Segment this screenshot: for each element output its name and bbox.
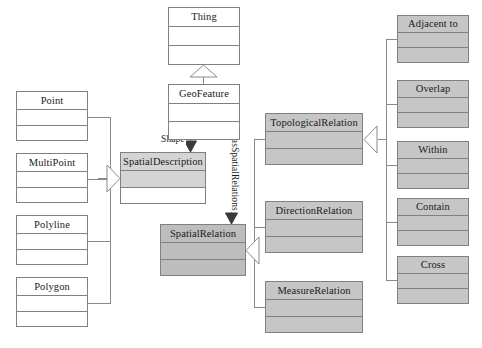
class-box-cross[interactable]: Cross — [397, 256, 469, 304]
edge-point-bus — [88, 117, 110, 118]
class-attributes-compartment — [398, 274, 468, 289]
class-attributes-compartment — [398, 216, 468, 231]
class-operations-compartment — [398, 174, 468, 188]
edge-contain-bus — [386, 222, 397, 223]
class-attributes-compartment — [17, 110, 87, 126]
class-attributes-compartment — [266, 132, 362, 149]
class-attributes-compartment — [266, 300, 362, 317]
edge-topological-bus-vertical — [386, 39, 387, 280]
class-box-adjacentto[interactable]: Adjacent to — [397, 15, 469, 63]
class-operations-compartment — [17, 126, 87, 141]
generalization-arrow-topologicalrelation — [363, 125, 379, 154]
edge-geometry-bus-vertical — [110, 117, 111, 304]
class-attributes-compartment — [121, 171, 205, 188]
class-operations-compartment — [398, 48, 468, 62]
class-box-directionrelation[interactable]: DirectionRelation — [265, 201, 363, 253]
class-attributes-compartment — [398, 159, 468, 174]
class-title-cross: Cross — [398, 257, 468, 274]
class-attributes-compartment — [17, 234, 87, 250]
class-operations-compartment — [17, 188, 87, 203]
class-box-overlap[interactable]: Overlap — [397, 80, 469, 128]
class-title-multipoint: MultiPoint — [17, 154, 87, 172]
generalization-arrow-spatialrelation — [245, 236, 261, 265]
edge-within-bus — [386, 165, 397, 166]
class-operations-compartment — [266, 317, 362, 333]
edge-directionrelation-bus — [254, 227, 265, 228]
class-operations-compartment — [169, 46, 239, 64]
generalization-arrow-thing — [189, 65, 218, 78]
class-attributes-compartment — [169, 104, 239, 122]
class-attributes-compartment — [266, 220, 362, 237]
class-title-directionrelation: DirectionRelation — [266, 202, 362, 220]
class-operations-compartment — [17, 312, 87, 327]
class-title-adjacentto: Adjacent to — [398, 16, 468, 33]
class-attributes-compartment — [161, 243, 245, 260]
edge-topologicalrelation-bus — [254, 139, 265, 140]
class-box-within[interactable]: Within — [397, 141, 469, 189]
edge-measurerelation-bus — [254, 307, 265, 308]
class-operations-compartment — [169, 122, 239, 139]
class-title-point: Point — [17, 92, 87, 110]
edge-relation-bus-vertical — [254, 139, 255, 307]
class-box-geofeature[interactable]: GeoFeature — [168, 84, 240, 140]
class-title-measurerelation: MeasureRelation — [266, 282, 362, 300]
class-title-polygon: Polygon — [17, 278, 87, 296]
class-title-polyline: Polyline — [17, 216, 87, 234]
edge-overlap-bus — [386, 104, 397, 105]
class-operations-compartment — [398, 113, 468, 127]
class-title-geofeature: GeoFeature — [169, 85, 239, 104]
edge-adjacentto-bus — [386, 39, 397, 40]
generalization-arrow-spatialdescription — [105, 164, 121, 193]
class-title-within: Within — [398, 142, 468, 159]
class-operations-compartment — [398, 289, 468, 303]
class-attributes-compartment — [17, 172, 87, 188]
class-box-topologicalrelation[interactable]: TopologicalRelation — [265, 113, 363, 165]
class-operations-compartment — [266, 149, 362, 165]
class-title-topologicalrelation: TopologicalRelation — [266, 114, 362, 132]
class-operations-compartment — [161, 260, 245, 276]
edge-polyline-bus — [88, 241, 110, 242]
class-operations-compartment — [398, 231, 468, 245]
class-attributes-compartment — [398, 33, 468, 48]
edge-polygon-bus — [88, 303, 110, 304]
class-box-spatialrelation[interactable]: SpatialRelation — [160, 224, 246, 276]
class-title-spatialrelation: SpatialRelation — [161, 225, 245, 243]
class-operations-compartment — [121, 188, 205, 204]
class-operations-compartment — [266, 237, 362, 253]
class-title-overlap: Overlap — [398, 81, 468, 98]
class-title-spatialdescription: SpatialDescription — [121, 153, 205, 171]
class-box-measurerelation[interactable]: MeasureRelation — [265, 281, 363, 333]
class-box-point[interactable]: Point — [16, 91, 88, 141]
class-box-polyline[interactable]: Polyline — [16, 215, 88, 265]
class-box-spatialdescription[interactable]: SpatialDescription — [120, 152, 206, 204]
class-box-thing[interactable]: Thing — [168, 7, 240, 65]
edge-label-hasspatialrelations: hasSpatialRelations — [230, 133, 240, 212]
class-title-thing: Thing — [169, 8, 239, 27]
class-box-contain[interactable]: Contain — [397, 198, 469, 246]
class-box-polygon[interactable]: Polygon — [16, 277, 88, 327]
class-box-multipoint[interactable]: MultiPoint — [16, 153, 88, 203]
uml-class-diagram-canvas: Shape hasSpatialRelations Thing GeoFeatu… — [0, 0, 482, 348]
class-operations-compartment — [17, 250, 87, 265]
class-attributes-compartment — [398, 98, 468, 113]
class-attributes-compartment — [169, 27, 239, 46]
class-attributes-compartment — [17, 296, 87, 312]
edge-topological-bus-to-triangle — [378, 139, 387, 140]
class-title-contain: Contain — [398, 199, 468, 216]
edge-cross-bus — [386, 280, 397, 281]
